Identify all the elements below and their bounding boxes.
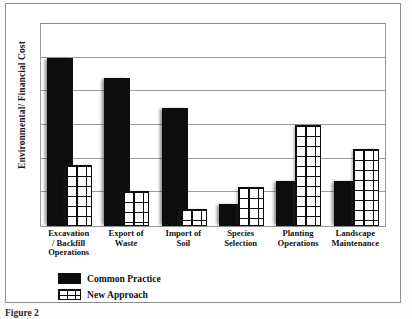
bar-group <box>41 24 98 226</box>
x-tick-label: SpeciesSelection <box>212 229 269 248</box>
bar-new-approach <box>238 187 264 226</box>
legend-item-new-approach: New Approach <box>58 287 238 301</box>
x-tick-label-line: Soil <box>155 239 212 249</box>
x-tick-label-line: Selection <box>212 239 269 249</box>
legend-label-common-practice: Common Practice <box>87 273 161 284</box>
y-axis-title: Environmental/ Financial Cost <box>17 5 35 205</box>
x-tick-label: Excavation/ BackfillOperations <box>40 229 97 258</box>
x-tick-label-line: Maintenance <box>327 239 384 249</box>
chart-legend: Common Practice New Approach <box>58 271 238 303</box>
plot-area <box>40 23 386 227</box>
x-tick-label-line: Waste <box>97 239 154 249</box>
x-axis-tick-labels: Excavation/ BackfillOperationsExport ofW… <box>40 229 386 269</box>
bar-group <box>98 24 155 226</box>
bar-new-approach <box>353 149 379 226</box>
legend-item-common-practice: Common Practice <box>58 271 238 285</box>
x-tick-label: Import ofSoil <box>155 229 212 248</box>
bar-group <box>156 24 213 226</box>
solid-black-swatch-icon <box>58 273 81 284</box>
legend-label-new-approach: New Approach <box>87 289 148 300</box>
x-tick-label-line: Operations <box>269 239 326 249</box>
bar-new-approach <box>295 125 321 226</box>
bar-group <box>328 24 385 226</box>
x-tick-label: PlantingOperations <box>269 229 326 248</box>
bar-new-approach <box>123 191 149 226</box>
bar-group <box>270 24 327 226</box>
bar-group <box>213 24 270 226</box>
bar-new-approach <box>66 165 92 226</box>
x-tick-label: Export ofWaste <box>97 229 154 248</box>
x-tick-label: LandscapeMaintenance <box>327 229 384 248</box>
grid-hatch-swatch-icon <box>58 289 81 300</box>
bars-layer <box>41 24 385 226</box>
bar-new-approach <box>181 209 207 226</box>
figure-caption: Figure 2 <box>5 308 39 319</box>
x-tick-label-line: Operations <box>40 248 97 258</box>
figure-container: Environmental/ Financial Cost Excavation… <box>0 0 412 319</box>
